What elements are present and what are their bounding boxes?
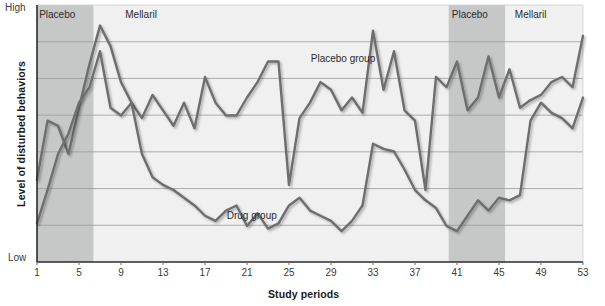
y-axis-low-label: Low (8, 252, 26, 263)
x-tick-label: 49 (527, 267, 555, 278)
x-tick-label: 5 (65, 267, 93, 278)
x-tick-label: 29 (317, 267, 345, 278)
x-tick-label: 41 (443, 267, 471, 278)
band-placebo-2 (449, 5, 506, 262)
series-label-drug-group: Drug group (227, 210, 277, 221)
chart-figure: Level of disturbed behaviors Study perio… (0, 0, 605, 306)
x-tick-label: 9 (107, 267, 135, 278)
x-tick-label: 13 (149, 267, 177, 278)
y-axis-title: Level of disturbed behaviors (15, 59, 27, 209)
x-axis-title: Study periods (268, 288, 339, 300)
x-tick-label: 37 (401, 267, 429, 278)
x-tick-label: 25 (275, 267, 303, 278)
band-label-placebo-0: Placebo (39, 9, 75, 20)
x-tick-label: 17 (191, 267, 219, 278)
x-tick-label: 53 (569, 267, 597, 278)
band-label-placebo-2: Placebo (452, 9, 488, 20)
x-tick-label: 21 (233, 267, 261, 278)
band-mellaril-3 (505, 5, 583, 262)
x-tick-label: 1 (23, 267, 51, 278)
y-axis-high-label: High (5, 2, 26, 13)
band-label-mellaril-1: Mellaril (125, 9, 157, 20)
series-label-placebo-group: Placebo group (311, 53, 376, 64)
chart-svg (0, 0, 605, 306)
band-label-mellaril-3: Mellaril (515, 9, 547, 20)
x-tick-label: 45 (485, 267, 513, 278)
band-mellaril-1 (94, 5, 449, 262)
x-tick-label: 33 (359, 267, 387, 278)
